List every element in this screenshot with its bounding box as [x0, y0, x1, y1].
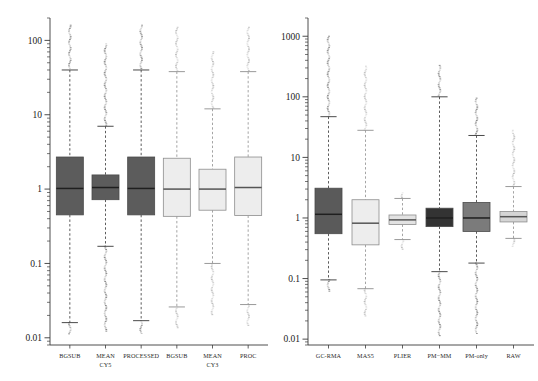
x-tick-label: PM-only [465, 352, 489, 359]
x-tick-sublabel: CY3 [207, 361, 219, 368]
x-tick-label: BGSUB [59, 352, 80, 359]
boxplot-box [352, 66, 379, 316]
x-tick-label: PM−MM [428, 352, 452, 359]
x-tick-label: BGSUB [166, 352, 187, 359]
boxplot-box [56, 25, 83, 334]
boxplot-box [500, 130, 527, 246]
box-iqr [315, 188, 342, 233]
y-tick-label: 0.01 [283, 334, 300, 344]
boxplot-box [463, 98, 490, 333]
y-tick-label: 1 [295, 213, 300, 223]
box-iqr [128, 157, 155, 215]
boxplot-box [315, 36, 342, 291]
boxplot-figure: 1001010.10.01BGSUBMEANCY5PROCESSEDBGSUBM… [0, 0, 538, 381]
y-tick-label: 0.1 [288, 274, 300, 284]
boxplot-box [199, 52, 226, 315]
x-tick-label: PROCESSED [123, 352, 159, 359]
right-panel: 10001001010.10.01GC-RMAMAS5PLIERPM−MMPM-… [266, 0, 538, 381]
left-panel: 1001010.10.01BGSUBMEANCY5PROCESSEDBGSUBM… [0, 0, 272, 381]
box-iqr [352, 200, 379, 245]
box-iqr [235, 157, 262, 216]
y-tick-label: 100 [286, 92, 301, 102]
x-tick-label: GC-RMA [316, 352, 342, 359]
box-iqr [463, 203, 490, 232]
y-tick-label: 0.1 [30, 259, 42, 269]
x-tick-label: PROC [240, 352, 257, 359]
y-tick-label: 1 [37, 184, 42, 194]
boxplot-box [92, 44, 119, 331]
y-tick-label: 10 [291, 153, 301, 163]
y-tick-label: 1000 [281, 32, 300, 42]
left-panel-plot: 1001010.10.01BGSUBMEANCY5PROCESSEDBGSUBM… [0, 0, 272, 381]
boxplot-box [426, 65, 453, 335]
x-tick-label: MAS5 [357, 352, 374, 359]
boxplot-box [163, 27, 190, 327]
x-tick-label: MEAN [96, 352, 115, 359]
y-tick-label: 100 [28, 36, 43, 46]
x-tick-label: PLIER [394, 352, 412, 359]
y-tick-label: 0.01 [25, 333, 42, 343]
x-tick-label: RAW [506, 352, 520, 359]
boxplot-box [389, 193, 416, 249]
right-panel-plot: 10001001010.10.01GC-RMAMAS5PLIERPM−MMPM-… [266, 0, 538, 381]
x-tick-sublabel: CY5 [100, 361, 112, 368]
box-iqr [56, 157, 83, 215]
boxplot-box [128, 25, 155, 333]
boxplot-box [235, 27, 262, 325]
y-tick-label: 10 [33, 110, 43, 120]
box-iqr [163, 158, 190, 216]
x-tick-label: MEAN [203, 352, 222, 359]
